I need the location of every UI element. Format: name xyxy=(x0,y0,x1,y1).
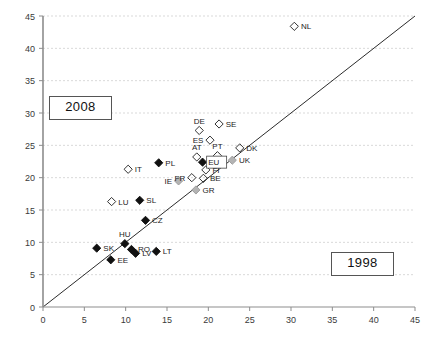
x-tick-label: 35 xyxy=(327,315,337,325)
x-tick-label: 20 xyxy=(203,315,213,325)
point-label-lu: LU xyxy=(118,198,128,207)
y-tick-label: 30 xyxy=(25,109,35,119)
point-label-sk: SK xyxy=(103,244,114,253)
point-label-it: IT xyxy=(135,165,142,174)
x-tick-label: 45 xyxy=(410,315,420,325)
scatter-chart: 051015202530354045 051015202530354045 NL… xyxy=(0,0,430,356)
point-label-se: SE xyxy=(226,120,237,129)
annotation-1998: 1998 xyxy=(331,252,394,276)
x-tick-label: 15 xyxy=(162,315,172,325)
y-tick-label: 25 xyxy=(25,141,35,151)
y-tick-label: 35 xyxy=(25,76,35,86)
marker-lt xyxy=(152,247,160,255)
x-tick-label: 10 xyxy=(121,315,131,325)
y-tick-label: 0 xyxy=(30,303,35,313)
marker-sl xyxy=(136,196,144,204)
marker-cz xyxy=(141,216,149,224)
plot-canvas: 051015202530354045 051015202530354045 NL… xyxy=(0,0,430,356)
point-label-lt: LT xyxy=(163,247,172,256)
marker-nl xyxy=(290,22,298,30)
x-axis-ticks: 051015202530354045 xyxy=(40,307,420,325)
point-label-gr: GR xyxy=(203,186,215,195)
annotation-2008: 2008 xyxy=(49,96,112,120)
y-tick-label: 15 xyxy=(25,206,35,216)
data-point-labels: NLDESEESDKATEUPTUKPLITFIFRBEIEGRSLLUCZHU… xyxy=(103,22,311,264)
point-label-at: AT xyxy=(192,143,202,152)
point-label-pl: PL xyxy=(165,159,175,168)
y-tick-label: 40 xyxy=(25,44,35,54)
y-axis-ticks: 051015202530354045 xyxy=(25,12,43,313)
x-tick-label: 0 xyxy=(40,315,45,325)
marker-lu xyxy=(108,197,116,205)
point-label-fr: FR xyxy=(175,174,186,183)
x-tick-label: 30 xyxy=(286,315,296,325)
point-label-pt: PT xyxy=(212,142,222,151)
y-tick-label: 20 xyxy=(25,173,35,183)
marker-sk xyxy=(93,244,101,252)
x-tick-label: 5 xyxy=(82,315,87,325)
point-label-dk: DK xyxy=(246,144,258,153)
marker-ee xyxy=(107,256,115,264)
point-label-be: BE xyxy=(210,174,221,183)
marker-it xyxy=(124,165,132,173)
gridlines xyxy=(43,16,415,275)
y-tick-label: 10 xyxy=(25,238,35,248)
x-tick-label: 40 xyxy=(369,315,379,325)
marker-eu xyxy=(198,158,206,166)
point-label-hu: HU xyxy=(119,230,131,239)
point-label-cz: CZ xyxy=(152,216,163,225)
marker-de xyxy=(195,126,203,134)
y-tick-label: 5 xyxy=(30,270,35,280)
marker-at xyxy=(193,153,201,161)
point-label-ee: EE xyxy=(117,256,128,265)
marker-gr xyxy=(192,186,200,194)
y-tick-label: 45 xyxy=(25,12,35,22)
marker-uk xyxy=(228,156,236,164)
point-label-de: DE xyxy=(194,117,205,126)
point-label-uk: UK xyxy=(239,156,251,165)
point-label-ie: IE xyxy=(164,177,172,186)
x-tick-label: 25 xyxy=(245,315,255,325)
point-label-lv: LV xyxy=(142,249,152,258)
point-label-nl: NL xyxy=(301,22,312,31)
point-label-sl: SL xyxy=(146,196,156,205)
marker-se xyxy=(215,120,223,128)
marker-pl xyxy=(155,159,163,167)
